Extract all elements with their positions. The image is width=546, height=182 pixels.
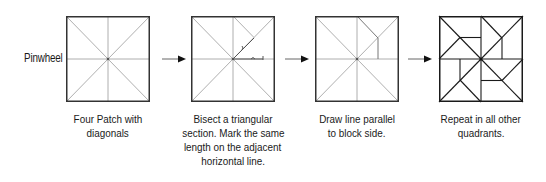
caption-line: quadrants. (458, 126, 505, 140)
step-caption: Bisect a triangular section. Mark the sa… (163, 112, 303, 168)
step-caption: Four Patch with diagonals (38, 112, 178, 140)
step-repeat-quadrants: Repeat in all other quadrants. (439, 16, 523, 102)
step-bisect: Bisect a triangular section. Mark the sa… (191, 16, 275, 102)
step-caption: Draw line parallel to block side. (287, 112, 427, 140)
caption-line: Four Patch with (74, 112, 143, 126)
pinwheel-block-icon (439, 16, 523, 102)
caption-line: Bisect a triangular (193, 112, 272, 126)
row-label: Pinwheel (24, 51, 63, 65)
caption-line: Repeat in all other (441, 112, 521, 126)
step-four-patch: Four Patch with diagonals (66, 16, 150, 102)
bisect-triangle-block-icon (191, 16, 275, 102)
four-patch-diagonals-block-icon (66, 16, 150, 102)
arrow-right-icon (162, 54, 186, 64)
arrow-right-icon (285, 54, 309, 64)
caption-line: horizontal line. (201, 154, 265, 168)
caption-line: length on the adjacent (184, 140, 281, 154)
parallel-line-block-icon (315, 16, 399, 102)
caption-line: diagonals (87, 126, 129, 140)
caption-line: to block side. (328, 126, 386, 140)
step-caption: Repeat in all other quadrants. (411, 112, 546, 140)
caption-line: Draw line parallel (319, 112, 395, 126)
caption-line: section. Mark the same (182, 126, 284, 140)
step-parallel-line: Draw line parallel to block side. (315, 16, 399, 102)
arrow-right-icon (408, 54, 432, 64)
